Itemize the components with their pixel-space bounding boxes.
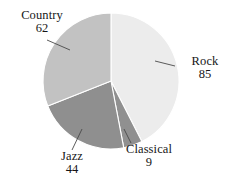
slice-label-jazz: Jazz 44	[48, 150, 96, 177]
slice-label-rock-value: 85	[178, 68, 232, 81]
slice-label-country-value: 62	[4, 22, 80, 35]
slice-label-classical: Classical 9	[112, 143, 186, 170]
pie-chart-figure: Country 62 Rock 85 Classical 9 Jazz 44	[0, 0, 235, 184]
slice-label-rock-name: Rock	[178, 55, 232, 68]
slice-label-jazz-value: 44	[48, 163, 96, 176]
slice-label-classical-value: 9	[112, 156, 186, 169]
slice-label-country-name: Country	[4, 9, 80, 22]
slice-label-jazz-name: Jazz	[48, 150, 96, 163]
slice-label-country: Country 62	[4, 9, 80, 36]
slice-label-rock: Rock 85	[178, 55, 232, 82]
slice-label-classical-name: Classical	[112, 143, 186, 156]
